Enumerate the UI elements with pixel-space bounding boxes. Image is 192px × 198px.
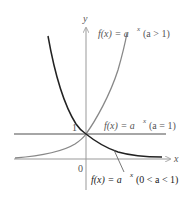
constant-line-label: f(x) = a x (a = 1)	[104, 117, 176, 132]
x-axis-label: x	[173, 153, 179, 164]
svg-text:f(x) = a: f(x) = a	[104, 120, 135, 132]
svg-text:x: x	[142, 117, 147, 125]
y-axis-label: y	[82, 13, 88, 24]
decay-curve	[48, 36, 162, 157]
growth-curve-label: f(x) = a x (a > 1)	[98, 25, 170, 40]
growth-curve	[15, 33, 127, 158]
svg-text:(a > 1): (a > 1)	[143, 28, 170, 40]
exponential-graph: y x 0 1 f(x) = a x (a > 1) f(x) = a x (a…	[0, 0, 192, 198]
svg-text:(a = 1): (a = 1)	[149, 120, 176, 132]
svg-text:x: x	[129, 171, 134, 179]
y-intercept-label: 1	[72, 122, 77, 133]
svg-text:f(x) = a: f(x) = a	[98, 28, 129, 40]
origin-label: 0	[78, 163, 83, 174]
svg-text:(0 < a < 1): (0 < a < 1)	[136, 174, 178, 186]
svg-text:x: x	[136, 25, 141, 33]
svg-text:f(x) = a: f(x) = a	[91, 174, 122, 186]
decay-curve-label: f(x) = a x (0 < a < 1)	[91, 171, 178, 186]
